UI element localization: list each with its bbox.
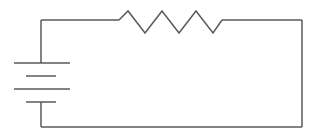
wire-group [41,20,302,127]
resistor-zigzag [119,11,222,33]
battery-symbol [14,63,70,102]
resistor-symbol [119,11,222,33]
circuit-schematic [0,0,319,137]
circuit-diagram-canvas [0,0,319,137]
